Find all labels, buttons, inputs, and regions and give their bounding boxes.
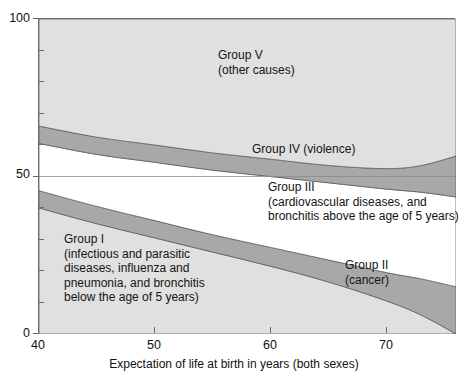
y-tick-70 [38, 113, 44, 114]
x-tick-50 [154, 327, 155, 333]
group-iii-line1: Group III [268, 180, 315, 194]
y-tick-40 [38, 207, 44, 208]
y-tick-20 [38, 270, 44, 271]
y-tick-60 [38, 144, 44, 145]
y-tick-90 [38, 50, 44, 51]
group-i-line4: pneumonia, and bronchitis [64, 276, 205, 290]
x-tick-label-60: 60 [250, 338, 290, 352]
x-tick-label-70: 70 [366, 338, 406, 352]
group-i-line1: Group I [64, 232, 104, 246]
x-tick-label-50: 50 [134, 338, 174, 352]
group-i-label: Group I(infectious and parasiticdiseases… [64, 232, 205, 305]
x-tick-60 [270, 327, 271, 333]
group-iii-label: Group III(cardiovascular diseases, andbr… [268, 180, 459, 224]
group-iv-label: Group IV (violence) [252, 142, 355, 157]
group-i-line5: below the age of 5 years) [64, 290, 199, 304]
y-tick-30 [38, 239, 44, 240]
group-v-line2: (other causes) [218, 63, 295, 77]
group-iii-line2: (cardiovascular diseases, and [268, 195, 427, 209]
group-i-line2: (infectious and parasitic [64, 247, 190, 261]
group-v-line1: Group V [218, 48, 263, 62]
y-tick-label-100: 100 [0, 11, 30, 25]
y-tick-0 [33, 333, 39, 334]
group-ii-label: Group II(cancer) [345, 258, 389, 287]
group-ii-line1: Group II [345, 258, 388, 272]
x-tick-70 [386, 327, 387, 333]
y-tick-100 [33, 18, 39, 19]
x-axis-title: Expectation of life at birth in years (b… [0, 357, 468, 371]
y-tick-10 [38, 302, 44, 303]
group-v-label: Group V(other causes) [218, 48, 295, 77]
group-iii-line3: bronchitis above the age of 5 years) [268, 209, 459, 223]
y-tick-80 [38, 81, 44, 82]
y-tick-50 [33, 176, 39, 177]
y-tick-label-50: 50 [0, 167, 30, 181]
group-i-line3: diseases, influenza and [64, 261, 189, 275]
chart-figure: 100 50 0 40 50 60 70 Expectation of life… [0, 0, 468, 380]
x-tick-label-40: 40 [18, 338, 58, 352]
group-ii-line2: (cancer) [345, 273, 389, 287]
